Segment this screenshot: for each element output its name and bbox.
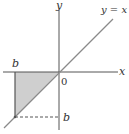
diagram-canvas: y x 0 y = x b b <box>0 0 129 134</box>
y-axis-label: y <box>55 0 63 12</box>
b-label-top: b <box>12 57 19 70</box>
x-axis-label: x <box>119 65 126 78</box>
line-label: y = x <box>100 4 127 15</box>
b-label-right: b <box>63 111 70 124</box>
origin-label: 0 <box>61 76 67 87</box>
point-b-b <box>14 116 17 119</box>
